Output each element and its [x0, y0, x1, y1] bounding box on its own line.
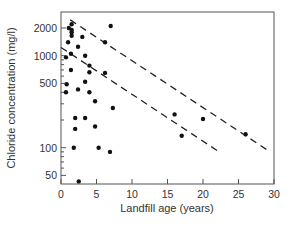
data-point — [111, 106, 115, 110]
data-point — [73, 116, 77, 120]
x-tick-label: 30 — [268, 188, 280, 200]
data-point — [76, 87, 80, 91]
x-tick-label: 5 — [94, 188, 100, 200]
data-point — [69, 68, 73, 72]
x-axis-title: Landfill age (years) — [120, 202, 214, 214]
data-point — [93, 124, 97, 128]
x-tick-label: 20 — [197, 188, 209, 200]
upper-envelope-line — [70, 20, 267, 150]
data-point — [103, 40, 107, 44]
data-point — [66, 40, 70, 44]
data-point — [243, 132, 247, 136]
data-point — [172, 112, 176, 116]
y-axis-title: Chloride concentration (mg/l) — [5, 27, 17, 168]
envelope-lines — [61, 20, 267, 151]
data-point — [96, 145, 100, 149]
data-point — [72, 145, 76, 149]
data-point — [69, 22, 73, 26]
data-point — [83, 116, 87, 120]
lower-envelope-line — [61, 47, 217, 150]
data-point — [87, 70, 91, 74]
data-point — [108, 150, 112, 154]
data-point — [83, 53, 87, 57]
y-tick-label: 100 — [39, 142, 57, 154]
data-point — [77, 179, 81, 183]
x-tick-label: 10 — [126, 188, 138, 200]
x-tick-label: 25 — [233, 188, 245, 200]
y-tick-label: 1000 — [34, 50, 58, 62]
data-point — [87, 63, 91, 67]
data-point — [69, 52, 73, 56]
x-tick-label: 0 — [58, 188, 64, 200]
y-tick-label: 2000 — [34, 22, 58, 34]
data-point — [76, 45, 80, 49]
y-tick-label: 500 — [39, 77, 57, 89]
x-tick-label: 15 — [162, 188, 174, 200]
data-point — [64, 82, 68, 86]
data-point — [69, 33, 73, 37]
x-axis-ticks: 051015202530 — [58, 179, 280, 200]
data-points — [64, 22, 248, 184]
data-point — [64, 55, 68, 59]
data-point — [80, 35, 84, 39]
data-point — [83, 80, 87, 84]
data-point — [201, 117, 205, 121]
data-point — [93, 99, 97, 103]
plot-frame — [61, 12, 274, 184]
data-point — [87, 90, 91, 94]
chloride-scatter-chart: 5010050010002000 051015202530 Landfill a… — [0, 0, 293, 226]
data-point — [73, 127, 77, 131]
data-point — [103, 71, 107, 75]
y-tick-label: 50 — [45, 169, 57, 181]
data-point — [180, 134, 184, 138]
data-point — [109, 24, 113, 28]
data-point — [64, 90, 68, 94]
